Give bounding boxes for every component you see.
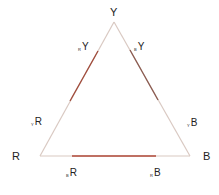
edge-right-accent xyxy=(130,50,158,100)
edge-left-accent xyxy=(70,51,98,101)
edge-label-bottom-left: BR xyxy=(66,168,77,178)
edge-label-left-lower: YR xyxy=(31,117,42,127)
triangle-diagram xyxy=(0,0,219,195)
edge-label-bottom-right: RB xyxy=(150,168,161,178)
edge-label-right-lower: YB xyxy=(187,118,197,128)
vertex-right-label: B xyxy=(203,151,210,162)
edge-label-left-upper: RY xyxy=(78,42,89,52)
edge-label-right-upper: BY xyxy=(134,42,144,52)
vertex-left-label: R xyxy=(12,151,20,162)
vertex-top-label: Y xyxy=(110,7,117,18)
